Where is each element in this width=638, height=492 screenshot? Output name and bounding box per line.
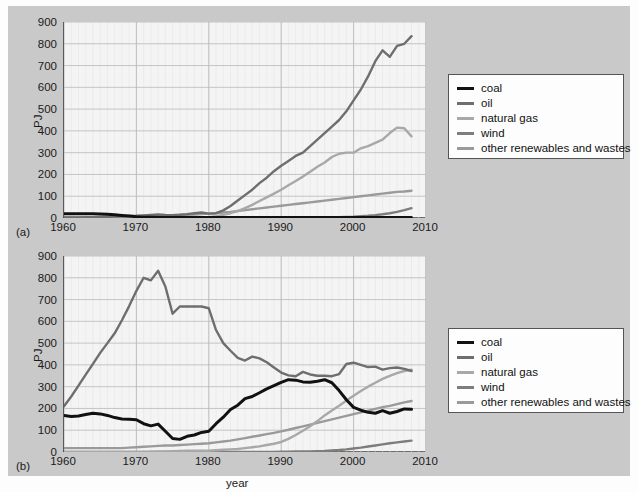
- x-tick-label: 1990: [258, 221, 302, 233]
- x-tick-label: 2010: [403, 221, 447, 233]
- legend-item-label: coal: [481, 81, 502, 96]
- legend-item-label: wind: [481, 126, 505, 141]
- y-tick-label: 300: [23, 148, 57, 158]
- y-tick-label: 300: [23, 382, 57, 392]
- legend-item[interactable]: natural gas: [457, 111, 616, 126]
- legend-swatch-icon: [457, 386, 474, 389]
- y-axis-title-b: PJ: [32, 349, 44, 362]
- legend-item[interactable]: wind: [457, 126, 616, 141]
- legend-item-label: wind: [481, 380, 505, 395]
- legend-swatch-icon: [457, 356, 474, 359]
- legend-swatch-icon: [457, 341, 474, 344]
- legend-item-label: natural gas: [481, 365, 538, 380]
- legend-item[interactable]: other renewables and wastes: [457, 141, 616, 156]
- y-tick-label: 900: [23, 17, 57, 27]
- legend-swatch-icon: [457, 401, 474, 404]
- y-tick-label: 600: [23, 316, 57, 326]
- x-tick-label: 1960: [41, 221, 85, 233]
- y-tick-label: 200: [23, 169, 57, 179]
- y-tick-label: 500: [23, 104, 57, 114]
- x-tick-label: 1970: [113, 455, 157, 467]
- legend-item[interactable]: coal: [457, 81, 616, 96]
- legend-item[interactable]: wind: [457, 380, 616, 395]
- y-axis-title-a: PJ: [32, 115, 44, 128]
- y-tick-label: 500: [23, 338, 57, 348]
- figure-container: 0100200300400500600700800900 19601970198…: [0, 0, 638, 492]
- y-tick-label: 700: [23, 61, 57, 71]
- legend-swatch-icon: [457, 132, 474, 135]
- legend-item-label: other renewables and wastes: [481, 141, 631, 156]
- y-tick-label: 100: [23, 191, 57, 201]
- chart-lines-b: [64, 256, 426, 452]
- legend-item-label: oil: [481, 96, 493, 111]
- y-tick-label: 800: [23, 39, 57, 49]
- x-tick-label: 1970: [113, 221, 157, 233]
- legend-a: coaloilnatural gaswindother renewables a…: [448, 74, 624, 159]
- legend-item[interactable]: coal: [457, 335, 616, 350]
- legend-swatch-icon: [457, 371, 474, 374]
- x-tick-label: 1960: [41, 455, 85, 467]
- y-tick-label: 200: [23, 403, 57, 413]
- x-tick-label: 2000: [331, 221, 375, 233]
- legend-item-label: coal: [481, 335, 502, 350]
- legend-item[interactable]: oil: [457, 96, 616, 111]
- chart-panel-a: 0100200300400500600700800900 19601970198…: [0, 0, 638, 246]
- plot-area-b: [63, 256, 425, 452]
- legend-swatch-icon: [457, 87, 474, 90]
- panel-label-b: (b): [16, 460, 30, 472]
- plot-area-a: [63, 22, 425, 218]
- chart-lines-a: [64, 22, 426, 218]
- legend-swatch-icon: [457, 102, 474, 105]
- y-tick-label: 900: [23, 251, 57, 261]
- legend-item[interactable]: other renewables and wastes: [457, 395, 616, 410]
- legend-swatch-icon: [457, 117, 474, 120]
- y-tick-label: 800: [23, 273, 57, 283]
- panel-label-a: (a): [16, 226, 30, 238]
- legend-item-label: natural gas: [481, 111, 538, 126]
- legend-b: coaloilnatural gaswindother renewables a…: [448, 328, 624, 413]
- x-tick-label: 1990: [258, 455, 302, 467]
- x-tick-label: 1980: [186, 221, 230, 233]
- legend-item[interactable]: natural gas: [457, 365, 616, 380]
- legend-swatch-icon: [457, 147, 474, 150]
- y-tick-label: 700: [23, 295, 57, 305]
- legend-item-label: other renewables and wastes: [481, 395, 631, 410]
- legend-item-label: oil: [481, 350, 493, 365]
- y-tick-label: 100: [23, 425, 57, 435]
- x-tick-label: 2000: [331, 455, 375, 467]
- legend-item[interactable]: oil: [457, 350, 616, 365]
- x-tick-label: 1980: [186, 455, 230, 467]
- x-tick-label: 2010: [403, 455, 447, 467]
- y-tick-label: 600: [23, 82, 57, 92]
- x-axis-title-b: year: [226, 477, 248, 489]
- chart-panel-b: 0100200300400500600700800900 19601970198…: [0, 246, 638, 492]
